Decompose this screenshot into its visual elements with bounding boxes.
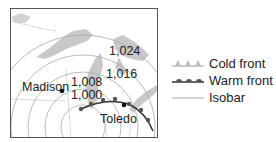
legend-label: Warm front [209, 73, 273, 88]
city-label-madison: Madison [22, 81, 69, 94]
legend-item-isobar: Isobar [172, 89, 273, 105]
warm-front-icon [172, 74, 204, 86]
isobar-label: 1,024 [109, 45, 140, 58]
toledo-dot [122, 103, 127, 108]
isobar-label: 1,008 [71, 76, 102, 89]
weather-map: 1,024 1,016 1,008 1,000 Madison Toledo [10, 8, 158, 138]
lake-erie [129, 85, 158, 113]
legend: Cold front Warm front Isobar [172, 55, 273, 106]
legend-item-warm-front: Warm front [172, 72, 273, 88]
legend-label: Isobar [209, 90, 245, 105]
isobar-label: 1,000 [71, 89, 102, 102]
isobar-label: 1,016 [106, 68, 137, 81]
cold-front-icon [172, 57, 204, 69]
city-label-toledo: Toledo [100, 113, 137, 126]
legend-item-cold-front: Cold front [172, 55, 273, 71]
lake-superior [36, 29, 93, 59]
isobar-line-icon [172, 91, 204, 103]
legend-label: Cold front [209, 56, 265, 71]
